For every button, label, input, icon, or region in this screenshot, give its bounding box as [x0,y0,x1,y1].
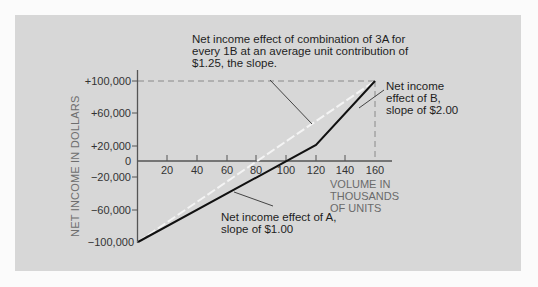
annotation-a: Net income effect of A, slope of $1.00 [221,211,337,235]
x-axis-title: VOLUME IN THOUSANDS OF UNITS [330,178,399,214]
annotation-b: Net income effect of B, slope of $2.00 [386,80,458,116]
leader-b [359,90,384,108]
y-tick-label: +100,000 [61,75,131,87]
y-axis-title: NET INCOME IN DOLLARS [69,97,81,237]
x-tick-label: 140 [330,164,360,176]
x-ticks [167,155,345,161]
x-tick-label: 40 [182,164,212,176]
x-tick-label: 80 [241,164,271,176]
x-tick-label: 20 [152,164,182,176]
x-tick-label: 100 [271,164,301,176]
y-tick-label: −100,000 [64,236,134,248]
x-tick-label: 60 [212,164,242,176]
annotation-combination: Net income effect of combination of 3A f… [192,33,408,69]
leader-a [234,192,273,206]
x-tick-label: 160 [360,164,390,176]
x-tick-label: 120 [301,164,331,176]
leader-combo [270,80,312,124]
